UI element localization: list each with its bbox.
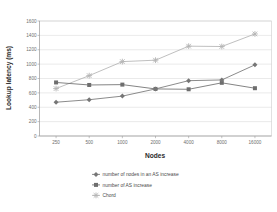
series-1-square-marker [87, 83, 91, 87]
y-axis-tick-labels: 02004006008001000120014001600 [26, 19, 37, 139]
x-axis-tick-label: 500 [85, 140, 93, 145]
line-chart: 02004006008001000120014001600 2505001000… [0, 0, 277, 212]
x-axis-tick-label: 2000 [150, 140, 161, 145]
chart-container: 02004006008001000120014001600 2505001000… [0, 0, 277, 212]
series-2-cross-marker [119, 59, 125, 65]
y-axis-tick-label: 1200 [26, 47, 37, 52]
y-axis-tick-label: 800 [29, 76, 37, 81]
x-axis-tick-label: 1000 [117, 140, 128, 145]
y-axis-tick-label: 0 [34, 134, 37, 139]
legend-item-2: Chord [92, 193, 116, 199]
series-1-square-marker [187, 87, 191, 91]
y-axis-tick-label: 1000 [26, 62, 37, 67]
series-2-cross-marker [252, 31, 258, 37]
x-axis-tick-label: 16000 [249, 140, 262, 145]
y-axis-tick-label: 400 [29, 105, 37, 110]
legend-cross-marker [93, 193, 99, 199]
series-1-square-marker [120, 83, 124, 87]
legend-item-0: number of nodes in an AS increase [92, 172, 179, 177]
legend-label: number of nodes in an AS increase [103, 172, 179, 177]
legend-square-marker [94, 183, 98, 187]
y-axis-tick-label: 1400 [26, 33, 37, 38]
x-axis-tick-label: 8000 [217, 140, 228, 145]
series-2-cross-marker [186, 43, 192, 49]
x-axis-title: Nodes [145, 152, 165, 159]
x-axis-tick-label: 250 [52, 140, 60, 145]
series-2-cross-marker [86, 73, 92, 79]
series-2-cross-marker [219, 44, 225, 50]
x-axis-tick-label: 4000 [184, 140, 195, 145]
y-axis-tick-label: 600 [29, 91, 37, 96]
series-1-square-marker [54, 80, 58, 84]
chart-background [0, 0, 277, 212]
y-axis-title: Lookup latency (ms) [5, 46, 13, 110]
legend-label: number of AS increase [103, 183, 153, 188]
y-axis-tick-label: 200 [29, 119, 37, 124]
series-1-square-marker [253, 86, 257, 90]
series-2-cross-marker [53, 86, 59, 92]
series-2-cross-marker [153, 57, 159, 63]
y-axis-tick-label: 1600 [26, 19, 37, 24]
legend-label: Chord [103, 193, 117, 198]
